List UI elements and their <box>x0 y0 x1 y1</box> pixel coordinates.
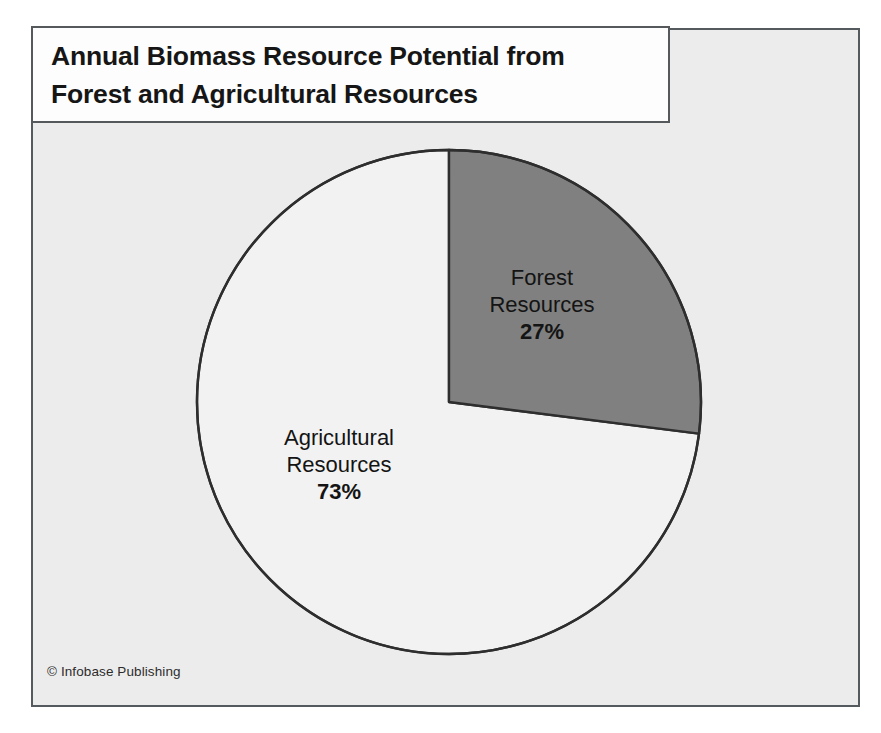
slice-label-agricultural-line1: Agricultural <box>239 424 439 451</box>
pie-chart <box>197 150 701 654</box>
slice-label-forest: Forest Resources 27% <box>442 264 642 345</box>
chart-title-plate: Annual Biomass Resource Potential from F… <box>31 26 670 123</box>
slice-label-agricultural-line2: Resources <box>239 451 439 478</box>
pie-chart-svg <box>197 150 701 654</box>
slice-label-forest-percent: 27% <box>442 318 642 345</box>
chart-title-line2: Forest and Agricultural Resources <box>51 75 668 113</box>
slice-label-forest-line2: Resources <box>442 291 642 318</box>
copyright-credit: © Infobase Publishing <box>47 664 181 679</box>
slice-label-forest-line1: Forest <box>442 264 642 291</box>
slice-label-agricultural: Agricultural Resources 73% <box>239 424 439 505</box>
chart-title-line1: Annual Biomass Resource Potential from <box>51 37 668 75</box>
figure-frame: Forest Resources 27% Agricultural Resour… <box>31 28 860 707</box>
slice-label-agricultural-percent: 73% <box>239 478 439 505</box>
